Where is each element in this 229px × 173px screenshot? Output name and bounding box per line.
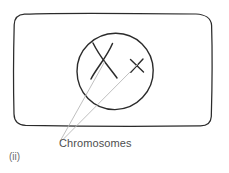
leader-line-to-large-chromosome xyxy=(61,62,105,141)
leader-line-to-small-chromosome xyxy=(63,65,138,141)
chromosome-x-small xyxy=(131,59,144,72)
nucleus-circle xyxy=(77,33,153,109)
figure-caption: (ii) xyxy=(9,151,20,162)
leader-lines xyxy=(61,62,138,141)
biology-cell-diagram: Chromosomes (ii) xyxy=(0,0,229,173)
chromosomes-label: Chromosomes xyxy=(59,137,132,149)
chromosome-x-large xyxy=(91,43,117,79)
